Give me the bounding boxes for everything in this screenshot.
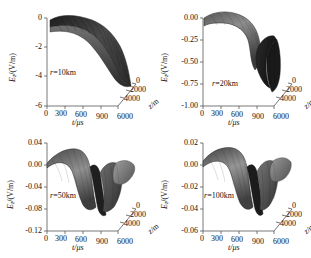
panel-4-x-tick-0: 0 xyxy=(200,234,204,243)
panel-4-y-tick-1: 0.00 xyxy=(170,160,198,169)
panel-1-x-tick-1: 300 xyxy=(55,109,67,118)
panel-r-100km: Ez/(V/m) 0.02 0.00 -0.02 -0.04 -0.06 0 3… xyxy=(156,129,311,257)
panel-2-y-tick-0: 0.00 xyxy=(170,13,198,22)
panel-2-z-tick-3: 6000 xyxy=(273,112,289,121)
panel-3-y-tick-0: 0.04 xyxy=(14,138,42,147)
panel-2-y-axis-label: Ez/(V/m) xyxy=(160,53,169,82)
panel-2-x-tick-1: 300 xyxy=(211,109,223,118)
panel-1-y-tick-3: -6 xyxy=(20,101,42,110)
panel-r-10km: Ez/(V/m) 0 -2 -4 -6 0 300 600 900 0 2000… xyxy=(0,0,155,128)
panel-1-x-tick-3: 900 xyxy=(96,112,108,121)
panel-4-y-axis-label: Ez/(V/m) xyxy=(160,180,169,209)
panel-2-z-tick-1: 2000 xyxy=(286,85,302,94)
surface-mesh xyxy=(47,149,96,210)
panel-2-x-tick-0: 0 xyxy=(200,109,204,118)
panel-3-z-tick-0: 0 xyxy=(136,201,140,210)
panel-2-y-tick-1: -0.25 xyxy=(170,35,198,44)
panel-4-z-tick-1: 2000 xyxy=(286,210,302,219)
figure-3d-surface-grid: Ez/(V/m) 0 -2 -4 -6 0 300 600 900 0 2000… xyxy=(0,0,311,258)
panel-3-y-tick-2: -0.04 xyxy=(14,182,42,191)
panel-1-annotation-r: r=10km xyxy=(50,68,76,77)
panel-4-y-tick-3: -0.04 xyxy=(170,204,198,213)
panel-3-annotation-r: r=50km xyxy=(50,191,76,200)
panel-4-annotation-r: r=100km xyxy=(204,191,234,200)
panel-2-annotation-r: r=20km xyxy=(212,79,238,88)
panel-2-z-tick-2: 4000 xyxy=(280,94,296,103)
panel-2-annotation-value: =20km xyxy=(215,79,238,88)
panel-1-y-tick-2: -4 xyxy=(20,71,42,80)
panel-4-y-tick-0: 0.02 xyxy=(170,138,198,147)
panel-2-y-tick-4: -1.00 xyxy=(170,101,198,110)
panel-3-z-tick-3: 6000 xyxy=(117,237,133,246)
panel-2-y-tick-3: -0.75 xyxy=(170,79,198,88)
panel-4-x-axis-label: t/μs xyxy=(228,243,240,252)
panel-1-y-tick-0: 0 xyxy=(20,13,42,22)
panel-1-z-tick-2: 4000 xyxy=(124,94,140,103)
panel-3-z-tick-1: 2000 xyxy=(130,210,146,219)
surface-mesh xyxy=(203,148,253,210)
panel-3-y-tick-3: -0.08 xyxy=(14,204,42,213)
panel-1-z-tick-0: 0 xyxy=(136,76,140,85)
panel-1-x-axis-label: t/μs xyxy=(72,118,84,127)
panel-2-x-tick-3: 900 xyxy=(252,112,264,121)
panel-3-y-tick-4: -0.12 xyxy=(14,226,42,235)
panel-2-x-axis-label: t/μs xyxy=(228,118,240,127)
panel-1-z-tick-1: 2000 xyxy=(130,85,146,94)
panel-4-z-tick-0: 0 xyxy=(292,201,296,210)
panel-4-z-tick-3: 6000 xyxy=(273,237,289,246)
panel-4-x-tick-3: 900 xyxy=(252,237,264,246)
panel-4-y-tick-2: -0.02 xyxy=(170,182,198,191)
panel-r-50km: Ez/(V/m) 0.04 0.00 -0.04 -0.08 -0.12 0 3… xyxy=(0,129,155,257)
panel-3-x-tick-0: 0 xyxy=(44,234,48,243)
panel-4-annotation-value: =100km xyxy=(207,191,234,200)
panel-3-x-tick-1: 300 xyxy=(55,234,67,243)
panel-1-x-tick-0: 0 xyxy=(44,109,48,118)
panel-3-x-axis-label: t/μs xyxy=(72,243,84,252)
panel-3-y-tick-1: 0.00 xyxy=(14,160,42,169)
panel-2-z-tick-0: 0 xyxy=(292,76,296,85)
panel-4-z-tick-2: 4000 xyxy=(280,219,296,228)
panel-2-y-tick-2: -0.50 xyxy=(170,57,198,66)
panel-3-z-tick-2: 4000 xyxy=(124,219,140,228)
panel-1-y-tick-1: -2 xyxy=(20,42,42,51)
surface-mesh xyxy=(204,12,261,70)
panel-r-20km: Ez/(V/m) 0.00 -0.25 -0.50 -0.75 -1.00 0 … xyxy=(156,0,311,128)
panel-3-x-tick-3: 900 xyxy=(96,237,108,246)
panel-4-x-tick-1: 300 xyxy=(211,234,223,243)
panel-1-z-tick-3: 6000 xyxy=(117,112,133,121)
panel-1-y-axis-label: Ez/(V/m) xyxy=(8,53,17,82)
panel-1-annotation-value: =10km xyxy=(53,68,76,77)
panel-3-annotation-value: =50km xyxy=(53,191,76,200)
panel-4-y-tick-4: -0.06 xyxy=(170,226,198,235)
